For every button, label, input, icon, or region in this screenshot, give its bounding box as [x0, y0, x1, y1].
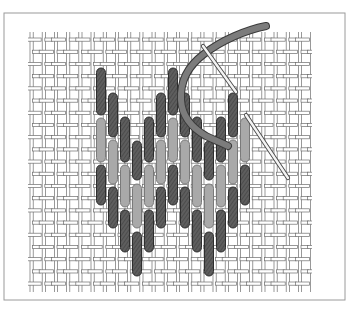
dark-stitch [205, 232, 214, 276]
dark-stitch [205, 141, 214, 180]
light-stitch [121, 165, 130, 207]
illustration-stage: Black-and-white line illustration of Flo… [0, 0, 349, 315]
light-stitch [157, 140, 166, 184]
light-stitch [205, 184, 214, 228]
dark-stitch [133, 141, 142, 180]
dark-stitch [121, 117, 130, 162]
light-stitch [109, 140, 118, 184]
light-stitch [217, 165, 226, 207]
light-stitch [193, 165, 202, 207]
florentine-stitch-illustration [0, 0, 349, 315]
dark-stitch [145, 210, 154, 252]
dark-stitch [241, 165, 250, 205]
light-stitch [241, 118, 250, 162]
dark-stitch [109, 93, 118, 137]
light-stitch [181, 140, 190, 184]
dark-stitch [229, 93, 238, 137]
dark-stitch [145, 117, 154, 162]
dark-stitch [229, 187, 238, 228]
dark-stitch [157, 187, 166, 228]
light-stitch [145, 165, 154, 207]
light-stitch [133, 184, 142, 228]
dark-stitch [157, 93, 166, 137]
light-stitch [97, 118, 106, 162]
dark-stitch [97, 68, 106, 115]
dark-stitch [133, 232, 142, 276]
light-stitch [169, 118, 178, 162]
dark-stitch [169, 68, 178, 115]
dark-stitch [181, 187, 190, 228]
dark-stitch [193, 210, 202, 252]
dark-stitch [121, 210, 130, 252]
dark-stitch [97, 165, 106, 205]
dark-stitch [169, 165, 178, 205]
dark-stitch [217, 210, 226, 252]
dark-stitch [109, 187, 118, 228]
